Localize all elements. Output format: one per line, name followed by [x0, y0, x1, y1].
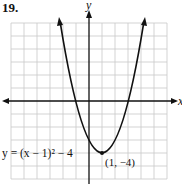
- parabola-graph: y x y = (x − 1)² − 4 (1, −4): [0, 0, 182, 184]
- equation-label: y = (x − 1)² − 4: [2, 147, 73, 160]
- curve-left-arrow-icon: [57, 17, 63, 26]
- x-axis-left-arrow-icon: [2, 98, 9, 104]
- x-axis-label: x: [177, 94, 182, 108]
- y-axis-label: y: [85, 0, 92, 12]
- vertex-label: (1, −4): [105, 156, 135, 169]
- vertex-point: [100, 151, 104, 155]
- x-axis-right-arrow-icon: [171, 98, 178, 104]
- curve-right-arrow-icon: [141, 17, 147, 26]
